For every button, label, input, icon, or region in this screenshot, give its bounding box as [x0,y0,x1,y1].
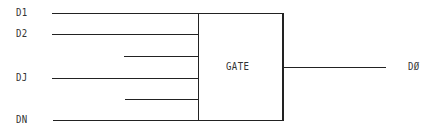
gate-diagram: D1 D2 DJ DN GATE DØ [0,0,440,131]
input-label-dn: DN [16,114,28,126]
input-label-dj: DJ [16,72,28,84]
input-label-d1: D1 [16,7,28,19]
gate-label: GATE [226,61,249,73]
output-label-d0: DØ [408,61,420,73]
diagram-canvas [0,0,440,131]
input-label-d2: D2 [16,28,28,40]
